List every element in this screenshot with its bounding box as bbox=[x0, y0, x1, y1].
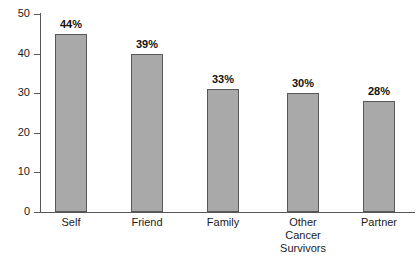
y-axis-tick-label: 50 bbox=[0, 8, 30, 19]
bar bbox=[363, 101, 395, 212]
bar-value-label: 28% bbox=[349, 86, 409, 97]
bar-value-label: 39% bbox=[117, 39, 177, 50]
y-axis-tick-label: 20 bbox=[0, 127, 30, 138]
x-axis-category-label: Self bbox=[31, 216, 111, 229]
x-axis-category-label: Other Cancer Survivors bbox=[263, 216, 343, 255]
x-axis-category-label: Partner bbox=[339, 216, 419, 229]
y-axis-tick bbox=[34, 54, 40, 55]
y-axis-tick bbox=[34, 133, 40, 134]
bar bbox=[207, 89, 239, 212]
bar-value-label: 33% bbox=[193, 74, 253, 85]
bar-value-label: 30% bbox=[273, 78, 333, 89]
y-axis-tick bbox=[34, 172, 40, 173]
y-axis-tick bbox=[34, 14, 40, 15]
y-axis-tick-label: 0 bbox=[0, 206, 30, 217]
bar-chart: 01020304050 44%39%33%30%28% SelfFriendFa… bbox=[0, 0, 420, 264]
bar-value-label: 44% bbox=[41, 19, 101, 30]
bar bbox=[131, 54, 163, 212]
bar bbox=[55, 34, 87, 212]
y-axis-tick-label: 30 bbox=[0, 87, 30, 98]
y-axis-tick bbox=[34, 93, 40, 94]
y-axis-tick-label: 40 bbox=[0, 48, 30, 59]
x-axis-category-label: Friend bbox=[107, 216, 187, 229]
bar bbox=[287, 93, 319, 212]
y-axis-tick-label: 10 bbox=[0, 166, 30, 177]
x-axis-line bbox=[40, 212, 415, 213]
y-axis-tick bbox=[34, 212, 40, 213]
x-axis-category-label: Family bbox=[183, 216, 263, 229]
y-axis-line bbox=[40, 13, 41, 213]
